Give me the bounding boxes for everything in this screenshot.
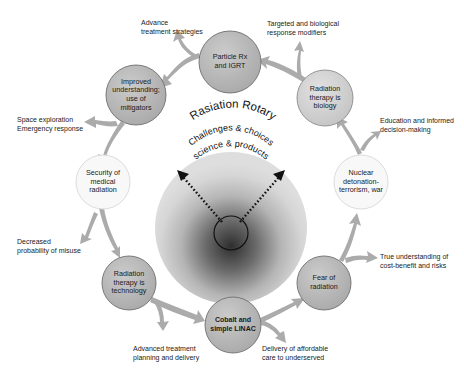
outcome-affordable-care: Delivery of affordable care to underserv… — [262, 345, 328, 362]
radiation-rotary-diagram: Rasiation Rotary Challenges & choices sc… — [0, 0, 464, 374]
branch-decreased-misuse — [80, 212, 98, 244]
node-particle-rx-igrt[interactable] — [199, 31, 261, 93]
arrow-cobalt-to-fear — [260, 298, 305, 323]
node-nuclear-detonation[interactable] — [334, 155, 388, 209]
branch-education — [360, 131, 381, 151]
node-radiation-therapy-biology[interactable] — [297, 70, 353, 126]
outcome-targeted-modifiers: Targeted and biological response modifie… — [267, 20, 339, 37]
diagram-title: Rasiation Rotary — [188, 98, 279, 122]
node-improved-understanding[interactable] — [106, 65, 166, 125]
outcome-advanced-planning: Advanced treatment planning and delivery — [133, 345, 199, 362]
branch-space-exploration — [84, 116, 118, 128]
diagram-canvas: Rasiation Rotary Challenges & choices sc… — [0, 0, 464, 374]
center-hub: Rasiation Rotary Challenges & choices sc… — [155, 98, 307, 304]
branch-affordable-care — [261, 320, 286, 343]
outcome-true-understanding: True understanding of cost-benefit and r… — [380, 253, 448, 270]
node-security-medical-radiation[interactable] — [76, 155, 130, 209]
center-gradient-circle — [155, 152, 307, 304]
outcome-space-exploration: Space exploration Emergency response — [17, 116, 83, 133]
arrow-nuclear-to-biology — [337, 117, 362, 155]
node-fear-of-radiation[interactable] — [297, 256, 351, 310]
arrow-particle-to-improved — [160, 53, 200, 88]
arrow-security-to-technology — [99, 208, 120, 258]
node-cobalt-linac[interactable] — [205, 297, 261, 353]
branch-true-understanding — [345, 251, 378, 263]
arrow-fear-to-nuclear — [339, 213, 361, 262]
node-radiation-therapy-technology[interactable] — [102, 256, 156, 310]
outcome-education: Education and informed decision-making — [380, 117, 454, 134]
outcome-advance-strategies: Advance treatment strategies — [141, 19, 203, 36]
outcome-decreased-misuse: Decreased probability of misuse — [17, 238, 81, 255]
